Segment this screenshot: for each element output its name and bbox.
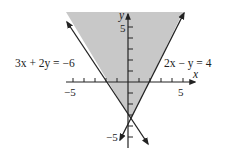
y-tick-label-5: 5 (120, 22, 126, 34)
inequality-graph: −5 5 5 −5 y x 3x + 2y = −6 2x − y = 4 (0, 0, 232, 155)
line2-label: 2x − y = 4 (164, 57, 212, 70)
x-axis-label: x (192, 68, 199, 80)
x-tick-label-neg5: −5 (64, 86, 76, 98)
x-tick-label-5: 5 (178, 86, 184, 98)
y-tick-label-neg5: −5 (106, 131, 118, 143)
line1-label: 3x + 2y = −6 (15, 57, 75, 70)
y-axis-label: y (118, 9, 125, 22)
